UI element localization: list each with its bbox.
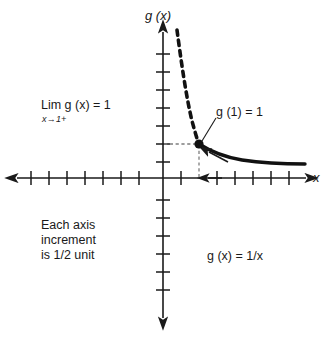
y-axis-label: g (x) [145,8,171,23]
annotation-leader-line [202,118,216,141]
graph-canvas [0,0,330,342]
y-axis [156,32,170,318]
axis-increment-note-line-3: is 1/2 unit [41,248,96,263]
curve-dashed-branch [177,30,199,144]
point-marker-g1 [194,139,203,148]
point-value-label: g (1) = 1 [216,105,263,120]
x-axis-label: x [313,170,320,185]
graph-figure: g (x) x Lim g (x) = 1 x→1+ g (1) = 1 Eac… [0,0,330,342]
x-axis [17,171,306,185]
axis-increment-note-line-2: increment [41,233,96,248]
limit-annotation: Lim g (x) = 1 x→1+ [41,98,111,124]
curve-solid-branch [199,144,305,164]
limit-expression: Lim g (x) = 1 [41,98,111,113]
axis-increment-note-line-1: Each axis [41,218,96,233]
limit-approach: x→1+ [42,114,111,125]
function-equation-label: g (x) = 1/x [207,249,263,264]
axis-increment-note: Each axis increment is 1/2 unit [41,218,96,262]
